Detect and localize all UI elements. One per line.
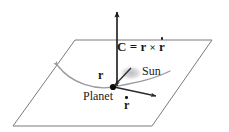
formula-c-symbol: C bbox=[117, 40, 127, 53]
r-vector-label: r bbox=[98, 69, 103, 81]
planet-label: Planet bbox=[83, 90, 113, 102]
formula-equals-symbol: = bbox=[130, 39, 138, 54]
formula-rdot-symbol: r bbox=[159, 40, 165, 53]
rdot-vector-label: r bbox=[124, 99, 129, 111]
rdot-vector-arrow bbox=[114, 87, 156, 96]
formula-cross-symbol: × bbox=[150, 41, 157, 53]
orbital-angular-momentum-figure: C=r×r Sun Planet r r bbox=[0, 0, 229, 132]
sun-glow bbox=[119, 66, 143, 81]
sun-label: Sun bbox=[142, 65, 161, 77]
figure-canvas bbox=[0, 0, 229, 132]
formula-r-symbol: r bbox=[140, 40, 146, 53]
orbital-plane bbox=[13, 40, 212, 126]
c-vector-formula-label: C=r×r bbox=[117, 40, 165, 53]
rdot-label-symbol: r bbox=[124, 99, 129, 111]
